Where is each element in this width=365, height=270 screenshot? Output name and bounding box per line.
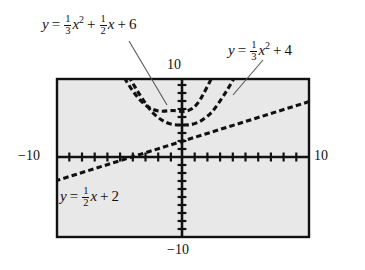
label-linear-y: y	[60, 188, 67, 204]
label-quadratic-6-plus2: +	[114, 16, 128, 32]
label-quadratic-4-y: y	[228, 42, 235, 58]
label-quadratic-4-frac1: 13	[250, 40, 257, 62]
label-linear-equals: =	[67, 188, 81, 204]
axis-label-bottom: −10	[167, 243, 189, 257]
graph-canvas	[0, 0, 365, 270]
axis-label-top: 10	[167, 58, 181, 72]
graph-figure: y=13x2+12x+6 y=13x2+4 y=12x+2 10 −10 10 …	[0, 0, 365, 270]
axis-label-left: −10	[18, 149, 40, 163]
label-quadratic-4: y=13x2+4	[228, 40, 292, 62]
label-quadratic-6-equals: =	[49, 16, 63, 32]
label-quadratic-4-plus1: +	[270, 42, 284, 58]
label-linear-frac1: 12	[82, 186, 89, 208]
label-quadratic-6: y=13x2+12x+6	[42, 14, 136, 36]
label-linear-plus1: +	[97, 188, 111, 204]
label-quadratic-6-plus1: +	[84, 16, 98, 32]
axis-label-right: 10	[314, 149, 328, 163]
label-quadratic-4-constant: 4	[285, 42, 293, 58]
label-linear-constant: 2	[112, 188, 120, 204]
label-quadratic-6-y: y	[42, 16, 49, 32]
label-quadratic-6-frac2: 12	[100, 14, 107, 36]
label-linear: y=12x+2	[60, 186, 119, 208]
label-quadratic-4-equals: =	[235, 42, 249, 58]
label-quadratic-6-constant: 6	[129, 16, 137, 32]
label-quadratic-6-frac1: 13	[64, 14, 71, 36]
